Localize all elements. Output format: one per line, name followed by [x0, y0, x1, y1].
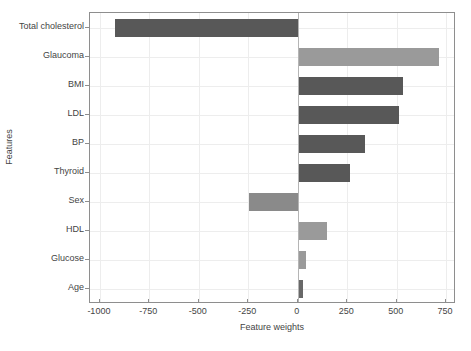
- y-tick-mark: [85, 201, 89, 202]
- x-tick-mark: [396, 299, 397, 303]
- bar: [298, 77, 403, 95]
- horizontal-gridline: [90, 173, 454, 174]
- vertical-gridline: [149, 13, 150, 302]
- bar: [298, 135, 365, 153]
- bar: [298, 164, 350, 182]
- y-tick-mark: [85, 143, 89, 144]
- y-tick-mark: [85, 114, 89, 115]
- y-tick-label: HDL: [0, 224, 84, 234]
- y-tick-label: LDL: [0, 108, 84, 118]
- x-axis-title: Feature weights: [89, 322, 455, 332]
- x-tick-label: -250: [222, 306, 272, 316]
- bar: [298, 48, 439, 66]
- y-tick-mark: [85, 288, 89, 289]
- x-tick-mark: [198, 299, 199, 303]
- y-tick-mark: [85, 172, 89, 173]
- bar: [115, 19, 298, 37]
- y-tick-label: Age: [0, 282, 84, 292]
- y-tick-label: Glucose: [0, 253, 84, 263]
- y-tick-label: Sex: [0, 195, 84, 205]
- horizontal-gridline: [90, 115, 454, 116]
- horizontal-gridline: [90, 144, 454, 145]
- x-tick-label: 250: [321, 306, 371, 316]
- vertical-gridline: [446, 13, 447, 302]
- plot-area: [89, 12, 455, 303]
- y-tick-label: Thyroid: [0, 166, 84, 176]
- vertical-gridline: [100, 13, 101, 302]
- bar: [249, 193, 297, 211]
- x-tick-label: 750: [420, 306, 470, 316]
- x-tick-label: -1000: [74, 306, 124, 316]
- bar: [298, 222, 328, 240]
- y-tick-mark: [85, 27, 89, 28]
- x-tick-mark: [297, 299, 298, 303]
- y-tick-label: Total cholesterol: [0, 21, 84, 31]
- x-tick-label: 500: [371, 306, 421, 316]
- x-tick-mark: [99, 299, 100, 303]
- x-tick-label: 0: [272, 306, 322, 316]
- bar-chart-figure: Features -1000-750-500-2500250500750 Tot…: [0, 0, 471, 351]
- y-tick-label: Glaucoma: [0, 50, 84, 60]
- y-tick-mark: [85, 259, 89, 260]
- x-tick-label: -500: [173, 306, 223, 316]
- y-tick-label: BMI: [0, 79, 84, 89]
- horizontal-gridline: [90, 260, 454, 261]
- y-tick-mark: [85, 56, 89, 57]
- x-tick-mark: [247, 299, 248, 303]
- y-tick-mark: [85, 230, 89, 231]
- vertical-gridline: [199, 13, 200, 302]
- y-tick-label: BP: [0, 137, 84, 147]
- bar: [298, 106, 399, 124]
- horizontal-gridline: [90, 231, 454, 232]
- vertical-gridline: [248, 13, 249, 302]
- x-tick-mark: [148, 299, 149, 303]
- x-tick-label: -750: [123, 306, 173, 316]
- x-tick-mark: [445, 299, 446, 303]
- x-tick-mark: [346, 299, 347, 303]
- zero-reference-line: [298, 13, 299, 302]
- horizontal-gridline: [90, 289, 454, 290]
- y-tick-mark: [85, 85, 89, 86]
